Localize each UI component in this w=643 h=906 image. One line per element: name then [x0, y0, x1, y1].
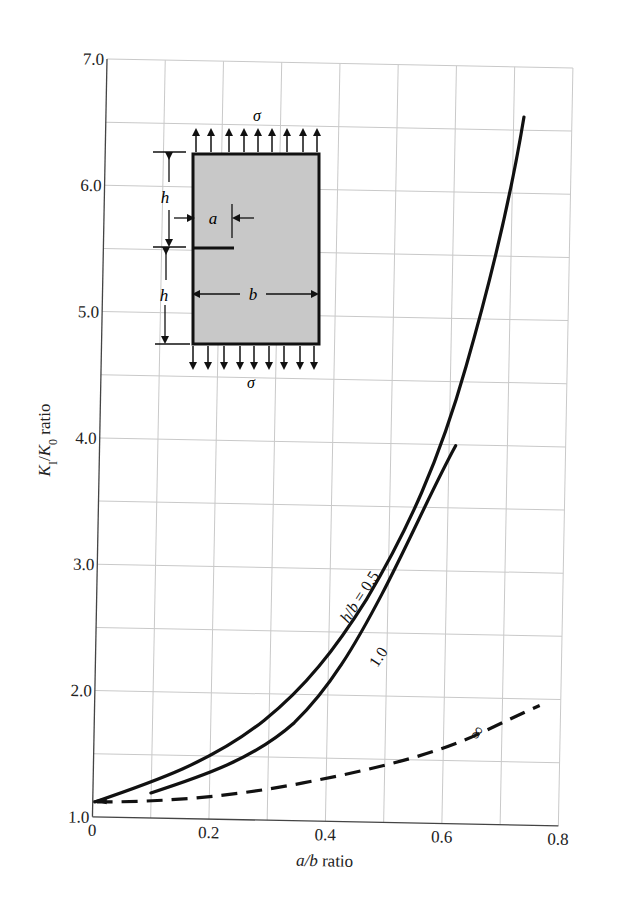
plot-area: 1.0 2.0 3.0 4.0 5.0 6.0 7.0 0 0.2 0.4 0.…: [67, 50, 583, 875]
grid-lines: [92, 59, 572, 826]
sigma-top-label: σ: [253, 107, 262, 124]
chart-figure: 1.0 2.0 3.0 4.0 5.0 6.0 7.0 0 0.2 0.4 0.…: [0, 0, 643, 906]
inset-plate-diagram: σ σ h h a b: [153, 107, 319, 391]
label-hb-0.5: h/b = 0.5: [336, 568, 382, 625]
x-tick: 0.8: [547, 830, 569, 849]
x-tick: 0.6: [431, 827, 453, 846]
a-label: a: [209, 209, 218, 228]
y-tick: 7.0: [83, 50, 105, 69]
y-tick-labels: 1.0 2.0 3.0 4.0 5.0 6.0 7.0: [68, 50, 104, 827]
x-axis-label: a/b ratio: [296, 851, 353, 871]
x-tick: 0.4: [314, 825, 336, 844]
sigma-bottom-label: σ: [247, 374, 256, 391]
y-tick: 4.0: [75, 428, 97, 447]
h-upper-label: h: [161, 188, 170, 207]
tension-arrows-bottom: [193, 346, 314, 366]
y-tick: 3.0: [73, 555, 95, 574]
y-tick: 5.0: [78, 302, 100, 321]
curve-hb-infinity: [97, 697, 540, 810]
x-tick: 0: [88, 821, 97, 840]
tension-arrows-top: [196, 132, 317, 152]
h-lower-label: h: [160, 286, 169, 305]
b-label: b: [249, 285, 258, 304]
y-tick: 6.0: [80, 176, 102, 195]
y-tick: 2.0: [70, 681, 92, 700]
curve-hb-1.0: [151, 440, 456, 799]
y-tick: 1.0: [68, 807, 90, 826]
x-tick: 0.2: [198, 823, 220, 842]
y-axis-label: KI/K0 ratio: [35, 404, 60, 478]
h-dimension-lines: [153, 152, 190, 344]
